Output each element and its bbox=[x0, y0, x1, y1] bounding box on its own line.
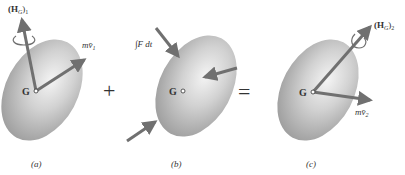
center-of-mass-a bbox=[34, 89, 38, 93]
caption-a: (a) bbox=[31, 159, 42, 169]
center-label-a: G bbox=[22, 86, 30, 97]
caption-c: (c) bbox=[306, 159, 316, 169]
impulse-arrow-top bbox=[156, 28, 178, 56]
impulse-arrow-bottom bbox=[127, 122, 155, 141]
rigid-body-b bbox=[139, 21, 253, 150]
panel-c: G (HG)2 mv̄2 (c) bbox=[261, 20, 394, 169]
panel-b: G ∫F dt (b) bbox=[127, 21, 253, 169]
angular-momentum-label-c: (HG)2 bbox=[374, 20, 394, 31]
center-label-c: G bbox=[299, 87, 307, 98]
plus-operator: + bbox=[103, 78, 115, 103]
linear-momentum-label-c: mv̄2 bbox=[355, 107, 369, 118]
center-of-mass-c bbox=[311, 90, 315, 94]
equals-operator: = bbox=[238, 79, 250, 104]
rigid-body-c bbox=[261, 25, 375, 154]
impulse-momentum-diagram: G (HG)1 mv̄1 (a) + G ∫F dt (b) = G (HG)2… bbox=[0, 0, 405, 175]
angular-momentum-label-a: (HG)1 bbox=[8, 4, 28, 15]
center-of-mass-b bbox=[181, 89, 185, 93]
caption-b: (b) bbox=[171, 159, 182, 169]
impulse-label: ∫F dt bbox=[134, 39, 153, 50]
center-label-b: G bbox=[169, 86, 177, 97]
linear-momentum-label-a: mv̄1 bbox=[82, 40, 96, 51]
panel-a: G (HG)1 mv̄1 (a) bbox=[0, 4, 99, 169]
